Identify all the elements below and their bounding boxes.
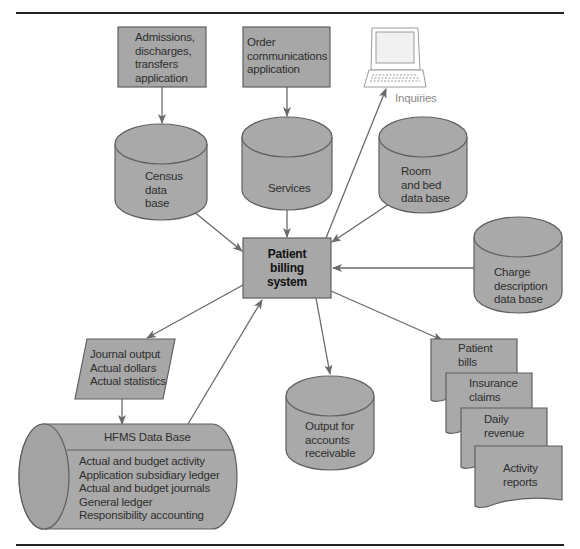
services-cylinder — [242, 117, 332, 210]
edge-billing-ar — [316, 298, 330, 374]
admissions-label: Admissions, discharges, transfers applic… — [135, 31, 195, 85]
edge-billing-documents — [331, 291, 442, 340]
ar-output-label: Output for accounts receivable — [305, 420, 355, 461]
charge-desc-label: Charge description data base — [494, 266, 547, 307]
census-label: Census data base — [145, 170, 183, 211]
doc-insurance-claims-label: Insurance claims — [469, 377, 518, 404]
edge-billing-inquiries — [326, 89, 386, 238]
journal-output-label: Journal output Actual dollars Actual sta… — [90, 348, 166, 389]
doc-daily-revenue-label: Daily revenue — [484, 413, 524, 440]
patient-billing-label: Patient billing system — [243, 247, 331, 289]
edge-hfms-billing — [188, 300, 262, 424]
terminal-icon — [364, 28, 426, 87]
inquiries-label: Inquiries — [395, 92, 437, 106]
edge-census-billing — [193, 211, 242, 251]
hfms-contents: Actual and budget activity Application s… — [79, 455, 220, 523]
doc-patient-bills-label: Patient bills — [458, 342, 492, 369]
order-comm-label: Order communications application — [247, 36, 327, 77]
hfms-title: HFMS Data Base — [104, 431, 191, 445]
edge-room-billing — [332, 204, 389, 242]
doc-activity-reports-label: Activity reports — [503, 462, 538, 489]
edge-billing-journal — [147, 285, 243, 338]
room-bed-label: Room and bed data base — [401, 165, 450, 206]
services-label: Services — [268, 182, 311, 196]
